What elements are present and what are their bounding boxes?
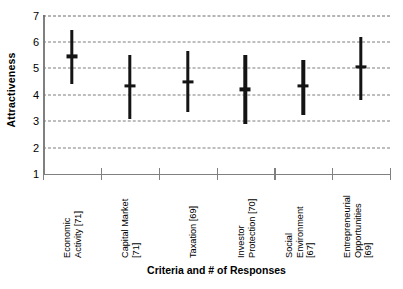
x-axis-title: Criteria and # of Responses (43, 264, 390, 276)
gridline (43, 15, 390, 16)
y-axis-tick-label: 2 (33, 142, 39, 154)
x-axis-category-labels: EconomicActivity [71]Capital Market[71]T… (43, 180, 390, 260)
mean-tick (298, 84, 309, 87)
x-axis-tick (43, 168, 44, 180)
x-axis-category-label: EntrepreneurialOpportunities[69] (321, 180, 401, 258)
plot-area (43, 16, 390, 175)
y-axis-tick-label: 1 (33, 168, 39, 180)
gridline (43, 147, 390, 148)
gridline (43, 121, 390, 122)
y-axis-title: Attractiveness (0, 0, 22, 180)
mean-tick (240, 88, 251, 91)
x-axis-category-label-text: InvestorProtection [70] (236, 180, 257, 258)
x-axis-tick (217, 168, 218, 180)
y-axis-tick-label: 6 (33, 36, 39, 48)
y-axis-title-text: Attractiveness (5, 52, 17, 127)
x-axis-category-label-text: EntrepreneurialOpportunities[69] (342, 180, 374, 258)
x-axis-category-label-text: SocialEnvironment[67] (284, 180, 316, 258)
x-axis-category-label-text: Taxation [69] (188, 180, 199, 258)
x-axis-tick (390, 168, 391, 180)
x-axis-tick (332, 168, 333, 180)
gridline (43, 94, 390, 95)
y-axis-tick-label: 7 (33, 10, 39, 22)
mean-tick (124, 84, 135, 87)
x-axis-tick (101, 168, 102, 180)
mean-tick (182, 80, 193, 83)
x-axis-category-label-text: Capital Market[71] (120, 180, 141, 258)
x-axis-category-label-text: EconomicActivity [71] (62, 180, 83, 258)
gridline (43, 41, 390, 42)
chart-figure: Attractiveness 1234567 EconomicActivity … (0, 0, 403, 289)
range-bar (302, 60, 305, 114)
gridline (43, 68, 390, 69)
y-axis-tick-label: 5 (33, 62, 39, 74)
mean-tick (356, 65, 367, 68)
x-axis-tick (274, 168, 275, 180)
mean-tick (66, 55, 77, 58)
y-axis-tick-label: 3 (33, 115, 39, 127)
x-axis-tick (159, 168, 160, 180)
y-axis-tick-label: 4 (33, 89, 39, 101)
y-axis-tick-labels: 1234567 (22, 0, 42, 185)
